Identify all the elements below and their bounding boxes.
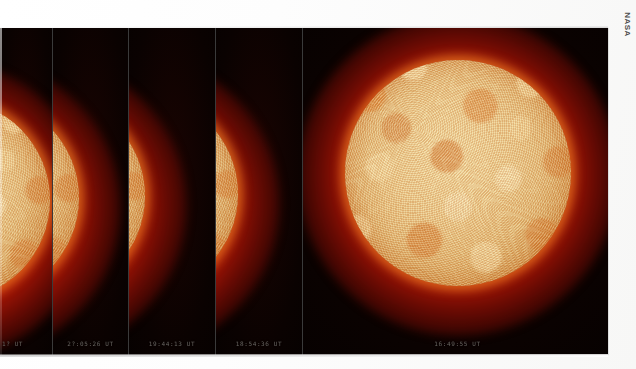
solar-frame-2: 2?:05:26 UT [53,28,129,355]
nasa-credit: NASA [620,6,634,66]
frame-timestamp: 1? UT [2,340,23,347]
frame-timestamp: 16:49:55 UT [303,340,608,347]
solar-frame-5: 16:49:55 UT [303,28,608,355]
frame-timestamp: 18:54:36 UT [216,340,302,347]
solar-disk [53,98,79,298]
solar-frame-4: 18:54:36 UT [216,28,303,355]
solar-disk [216,94,238,294]
solar-disk [129,96,145,296]
frame-timestamp: 2?:05:26 UT [53,340,128,347]
solar-frame-3: 19:44:13 UT [129,28,216,355]
solar-disk [0,100,50,300]
frame-timestamp: 19:44:13 UT [129,340,215,347]
figure-sheet: 1? UT 2?:05:26 UT 19:44:13 UT 18:54:36 U… [0,0,636,369]
solar-image-sequence-strip: 1? UT 2?:05:26 UT 19:44:13 UT 18:54:36 U… [0,28,608,355]
solar-frame-1: 1? UT [0,28,53,355]
nasa-credit-label: NASA [623,12,632,36]
solar-disk [345,60,571,286]
